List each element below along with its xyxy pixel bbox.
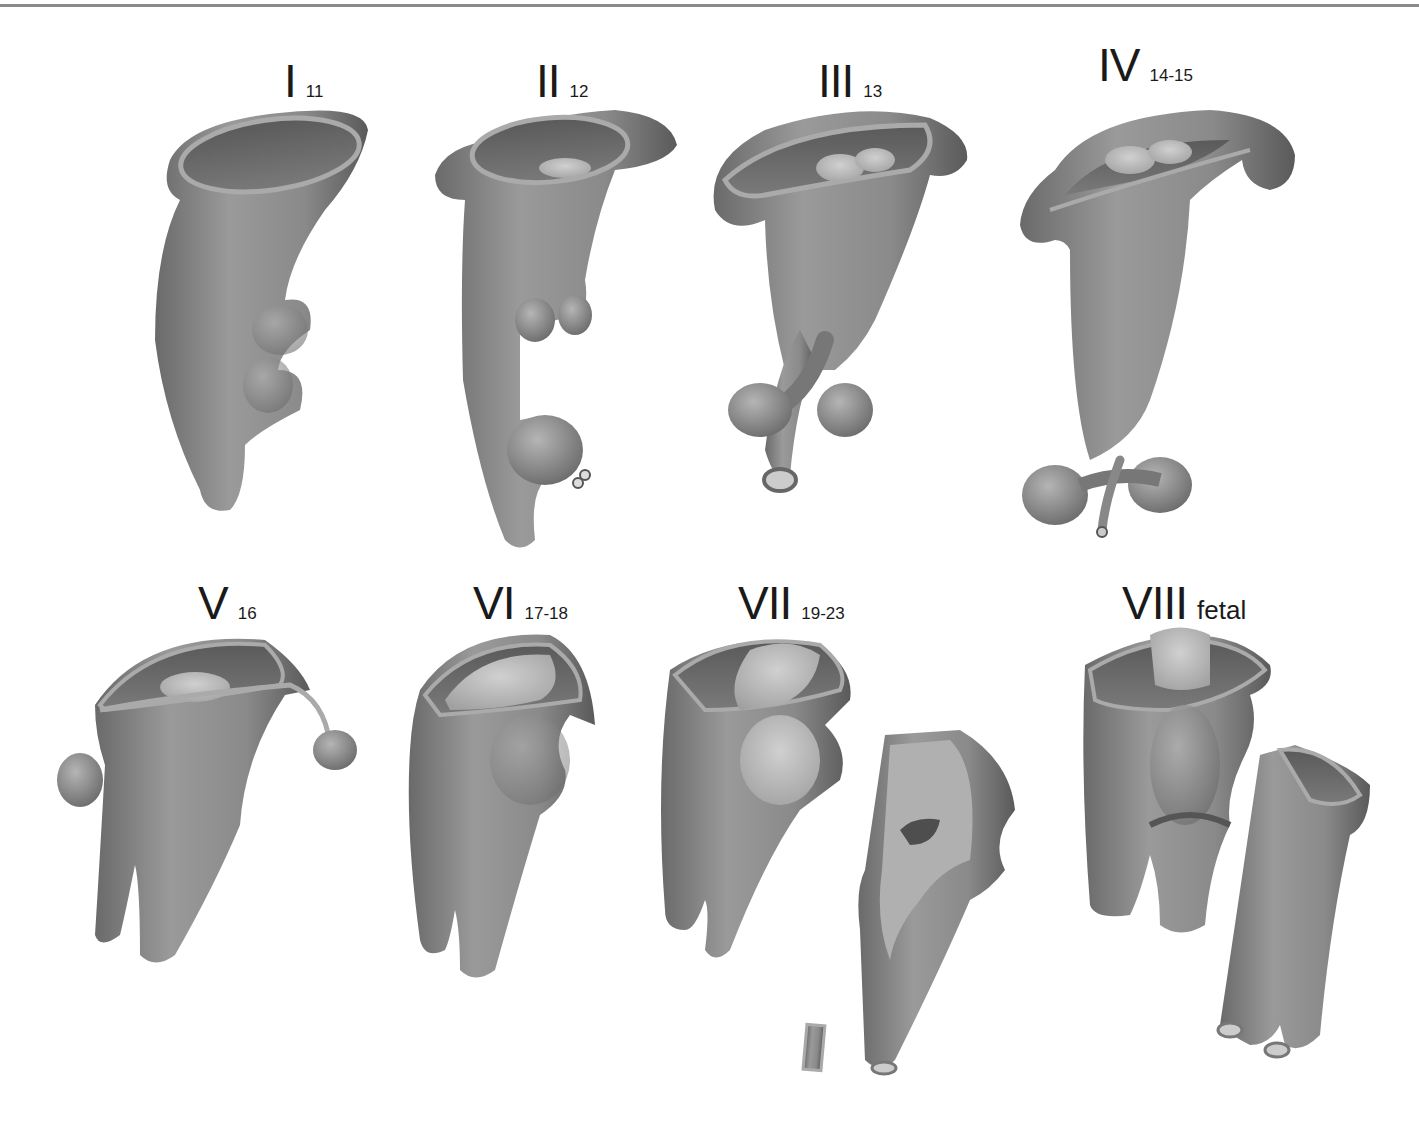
stage-8-illustration — [1070, 625, 1400, 1095]
stage-age: 11 — [306, 82, 324, 101]
stage-2-illustration — [425, 100, 695, 560]
stage-numeral: VIII — [1122, 577, 1187, 629]
stage-age: 12 — [570, 82, 589, 101]
stage-3-illustration — [705, 100, 985, 500]
stage-3-label: III13 — [818, 58, 882, 104]
stage-age: 13 — [863, 82, 882, 101]
stage-numeral: VI — [473, 577, 514, 629]
stage-numeral: IV — [1098, 39, 1139, 91]
top-rule — [0, 4, 1419, 7]
stage-age: 16 — [238, 604, 257, 623]
stage-age: fetal — [1197, 595, 1246, 625]
stage-4-label: IV14-15 — [1098, 42, 1193, 88]
stage-7-illustration — [650, 630, 1030, 1090]
stage-6-illustration — [400, 630, 620, 990]
stage-age: 19-23 — [801, 604, 844, 623]
stage-5-label: V16 — [198, 580, 257, 626]
stage-5-illustration — [45, 625, 365, 975]
stage-7-label: VII19-23 — [738, 580, 845, 626]
stage-age: 17-18 — [524, 604, 567, 623]
stage-numeral: VII — [738, 577, 791, 629]
stage-4-illustration — [1010, 100, 1310, 550]
stage-age: 14-15 — [1149, 66, 1192, 85]
stage-numeral: V — [198, 577, 228, 629]
stage-6-label: VI17-18 — [473, 580, 568, 626]
stage-1-illustration — [150, 100, 410, 540]
stage-8-label: VIIIfetal — [1122, 580, 1246, 626]
stage-1-label: I11 — [284, 58, 323, 104]
stage-2-label: II12 — [536, 58, 588, 104]
